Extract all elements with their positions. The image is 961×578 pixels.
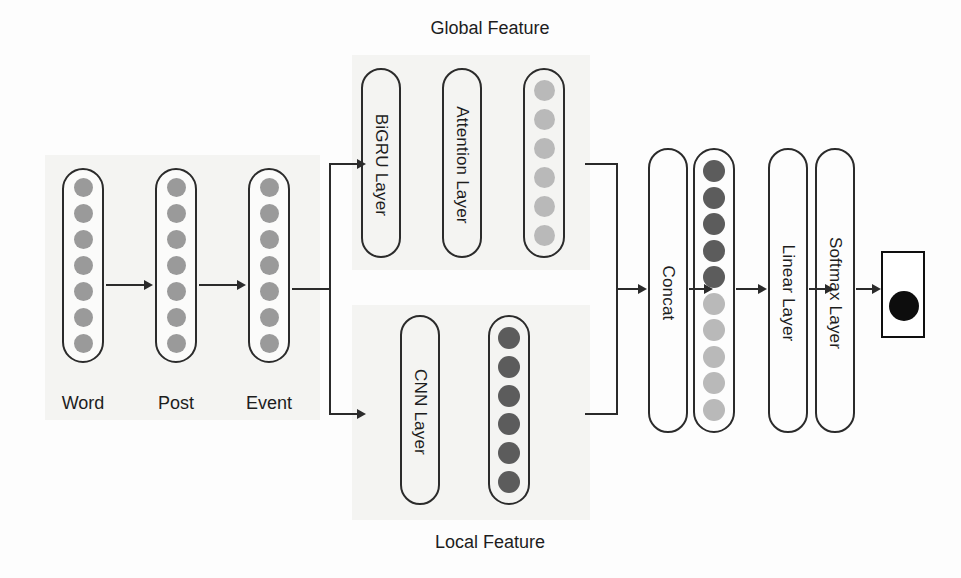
merge-stem-line [616, 288, 640, 290]
neuron-dot [703, 372, 725, 394]
concat-vector-dots [702, 160, 726, 421]
neuron-dot [74, 282, 93, 301]
neuron-dot [74, 230, 93, 249]
neuron-dot [498, 356, 520, 378]
softmax-layer-label: Softmax Layer [825, 221, 845, 365]
neuron-dot [167, 204, 186, 223]
neuron-dot [703, 266, 725, 288]
neuron-dot [534, 225, 555, 246]
neuron-dot [167, 256, 186, 275]
neuron-dot [260, 256, 279, 275]
neuron-dot [74, 256, 93, 275]
arrow-word-to-post-line [106, 284, 144, 286]
neuron-dot [703, 346, 725, 368]
cnn-layer-label: CNN Layer [410, 342, 430, 482]
arrow-post-to-event-head [237, 280, 246, 290]
neuron-dot [167, 178, 186, 197]
neuron-dot [167, 282, 186, 301]
split-branch-upper-line [329, 163, 359, 165]
word-vector-dots [70, 178, 96, 353]
neuron-dot [260, 204, 279, 223]
neuron-dot [167, 308, 186, 327]
neuron-dot [703, 187, 725, 209]
merge-to-concat-head [638, 284, 647, 294]
split-branch-lower-head [357, 409, 366, 419]
neuron-dot [167, 230, 186, 249]
neuron-dot [260, 334, 279, 353]
neuron-dot [498, 385, 520, 407]
split-stem-line [292, 288, 330, 290]
neuron-dot [260, 282, 279, 301]
input-label-post: Post [136, 393, 216, 414]
neuron-dot [260, 308, 279, 327]
neuron-dot [534, 167, 555, 188]
neuron-dot [703, 240, 725, 262]
local-feature-label: Local Feature [400, 532, 580, 553]
local-panel-background [352, 305, 590, 520]
neuron-dot [703, 160, 725, 182]
post-vector-dots [163, 178, 189, 353]
neuron-dot [534, 196, 555, 217]
attention-layer-label: Attention Layer [452, 85, 472, 245]
neuron-dot [703, 293, 725, 315]
bigru-layer-label: BiGRU Layer [371, 95, 391, 235]
arrow-vector-to-linear-head [758, 284, 767, 294]
merge-upper-line [585, 163, 618, 165]
split-trunk-line [329, 163, 331, 415]
input-label-word: Word [43, 393, 123, 414]
local-feature-vector-dots [497, 327, 521, 493]
arrow-word-to-post-head [144, 280, 153, 290]
neuron-dot [498, 442, 520, 464]
neuron-dot [534, 109, 555, 130]
neuron-dot [74, 204, 93, 223]
neuron-dot [703, 213, 725, 235]
neuron-dot [534, 138, 555, 159]
neuron-dot [534, 80, 555, 101]
linear-layer-label: Linear Layer [778, 228, 798, 358]
neuron-dot [74, 334, 93, 353]
arrow-post-to-event-line [199, 284, 237, 286]
global-feature-vector-dots [532, 80, 556, 246]
neuron-dot [74, 178, 93, 197]
neuron-dot [498, 471, 520, 493]
prediction-output-dot [889, 291, 919, 321]
split-branch-lower-line [329, 413, 359, 415]
architecture-diagram: Global Feature Word Post Event [0, 0, 961, 578]
arrow-vector-to-linear-line [736, 288, 760, 290]
merge-lower-line [585, 413, 618, 415]
input-label-event: Event [229, 393, 309, 414]
neuron-dot [260, 230, 279, 249]
neuron-dot [703, 399, 725, 421]
arrow-softmax-to-output-head [872, 284, 881, 294]
neuron-dot [703, 319, 725, 341]
neuron-dot [498, 327, 520, 349]
neuron-dot [167, 334, 186, 353]
neuron-dot [498, 413, 520, 435]
global-feature-label: Global Feature [400, 18, 580, 39]
neuron-dot [74, 308, 93, 327]
event-vector-dots [256, 178, 282, 353]
concat-layer-label: Concat [658, 243, 678, 343]
neuron-dot [260, 178, 279, 197]
